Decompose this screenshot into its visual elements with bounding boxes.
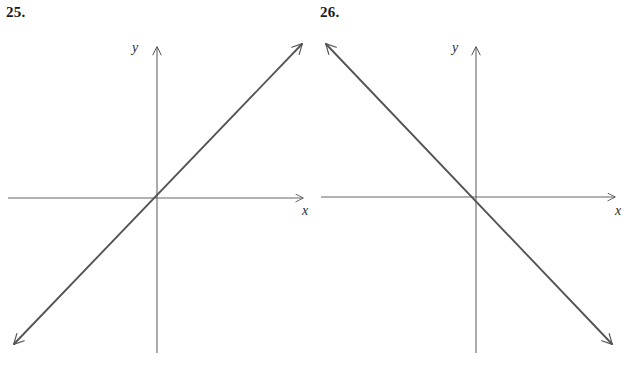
y-axis-label-25: y: [130, 40, 139, 55]
worksheet-page: 25. y x: [0, 0, 625, 365]
graph-26-figure: y x: [312, 0, 625, 365]
plotted-line-26: [326, 44, 612, 344]
plotted-line-25: [14, 44, 302, 344]
exercise-panel-26: 26. y x: [312, 0, 625, 365]
exercise-panel-25: 25. y x: [0, 0, 312, 365]
x-axis-label-26: x: [614, 203, 622, 218]
x-axis-label-25: x: [301, 203, 309, 218]
y-axis-label-26: y: [450, 40, 459, 55]
graph-25-figure: y x: [0, 0, 312, 365]
